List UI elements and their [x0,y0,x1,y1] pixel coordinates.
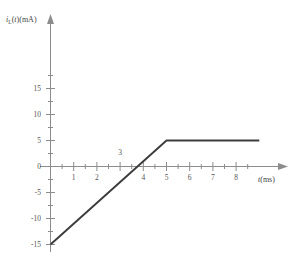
data-series-inductor-current [51,141,260,245]
x-axis-arrow-icon [278,163,288,170]
x-ticklabel-1: 1 [72,173,76,182]
y-ticklabel-neg10: -10 [31,214,41,223]
x-ticklabel-6: 6 [188,173,192,182]
x-axis-label-units: (ms) [260,175,275,184]
y-ticklabel-neg5: -5 [35,188,41,197]
inductor-current-plot: 15 10 5 0 -5 -10 -15 1 2 3 4 5 6 7 8 iL(… [0,0,296,267]
y-ticklabel-15: 15 [34,84,42,93]
y-ticklabel-5: 5 [37,136,41,145]
x-ticklabel-4: 4 [141,173,145,182]
x-ticklabel-7: 7 [211,173,215,182]
x-ticklabel-5: 5 [165,173,169,182]
x-ticklabel-2: 2 [95,173,99,182]
x-ticklabel-3: 3 [118,148,122,157]
chart-figure: 15 10 5 0 -5 -10 -15 1 2 3 4 5 6 7 8 iL(… [0,0,296,267]
y-axis-label: iL(t)(mA) [6,15,37,25]
y-axis-arrow-icon [47,14,54,24]
svg-text:iL(t)(mA): iL(t)(mA) [6,15,37,25]
svg-text:t(ms): t(ms) [258,175,275,184]
x-ticklabel-8: 8 [234,173,238,182]
y-ticklabel-0: 0 [37,162,41,171]
y-axis-label-units: (mA) [19,15,37,24]
x-axis-label: t(ms) [258,175,275,184]
y-ticklabel-neg15: -15 [31,240,41,249]
y-ticklabel-10: 10 [34,110,42,119]
